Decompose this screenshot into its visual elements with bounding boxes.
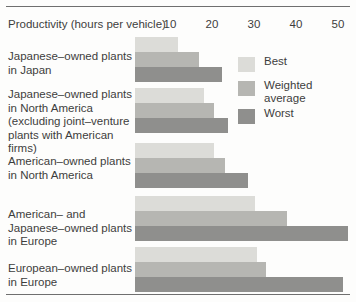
category-label-line: plants with American [8,129,134,143]
x-axis-tick-10: 10 [155,18,185,31]
category-label-line: in North America [8,169,134,183]
bottom-rule [6,294,350,295]
legend-row-best: Best [238,56,350,80]
legend-label-best: Best [264,55,287,68]
category-label-1: Japanese–owned plantsin Japan [8,50,134,77]
bar-group-5-best [135,247,257,262]
bar-group-3-worst [135,173,248,188]
category-label-3: American–owned plantsin North America [8,155,134,182]
legend-label-worst: Worst [264,107,294,120]
category-label-line: in Europe [8,235,134,249]
category-label-5: European–owned plantsin Europe [8,262,134,289]
category-label-line: Japanese–owned plants [8,222,134,236]
bar-group-1-best [135,37,178,52]
legend-swatch-worst [238,109,255,124]
bar-group-4-worst [135,226,348,241]
bar-group-2-worst [135,118,228,133]
top-rule [6,6,350,7]
x-axis-tick-20: 20 [197,18,227,31]
category-label-line: in Japan [8,64,134,78]
category-label-line: American–owned plants [8,155,134,169]
category-label-line: in North America [8,102,134,116]
legend-label-weighted: Weighted average [264,79,312,104]
category-label-line: American– and [8,208,134,222]
bar-group-1-weighted [135,52,199,67]
category-label-line: (excluding joint–venture [8,115,134,129]
legend-swatch-weighted [238,81,255,96]
category-label-line: in Europe [8,276,134,290]
bar-group-1-worst [135,67,222,82]
legend-swatch-best [238,57,255,72]
bar-group-5-worst [135,277,343,292]
x-axis-tick-30: 30 [239,18,269,31]
legend-row-weighted: Weighted average [238,80,350,108]
bar-group-2-weighted [135,103,214,118]
bar-group-4-best [135,196,255,211]
category-label-line: firms) [8,142,134,156]
category-label-4: American– andJapanese–owned plantsin Eur… [8,208,134,249]
x-axis-tick-40: 40 [281,18,311,31]
category-label-2: Japanese–owned plantsin North America(ex… [8,88,134,156]
bar-group-3-weighted [135,158,225,173]
bar-group-5-weighted [135,262,266,277]
category-label-line: Japanese–owned plants [8,50,134,64]
legend-row-worst: Worst [238,108,350,132]
bar-group-2-best [135,88,204,103]
x-axis-tick-50: 50 [323,18,353,31]
productivity-bar-chart: Productivity (hours per vehicle) 1020304… [0,0,356,302]
category-label-line: Japanese–owned plants [8,88,134,102]
x-axis-tick-labels: 1020304050 [0,18,356,32]
bar-group-3-best [135,143,214,158]
legend: BestWeighted averageWorst [238,56,350,132]
bar-group-4-weighted [135,211,287,226]
category-label-line: European–owned plants [8,262,134,276]
